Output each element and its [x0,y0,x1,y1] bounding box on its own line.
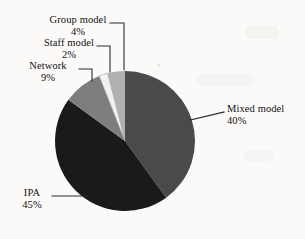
pie-chart-figure: Group model 4% Staff model 2% Network 9%… [0,0,305,239]
pie-label-mixed-model-name: Mixed model [227,103,303,115]
pie-label-group-model-name: Group model [35,14,121,26]
pie-label-ipa-name: IPA [12,187,52,199]
pie-label-ipa-value: 45% [12,199,52,211]
pie-label-ipa: IPA 45% [12,187,52,210]
pie-label-staff-model-name: Staff model [29,37,109,49]
pie-label-staff-model: Staff model 2% [29,37,109,60]
pie-label-group-model: Group model 4% [35,14,121,37]
pie-label-network-name: Network [13,60,83,72]
pie-slices [55,71,195,211]
pie-label-network: Network 9% [13,60,83,83]
pie-label-mixed-model-value: 40% [227,115,303,127]
pie-label-network-value: 9% [13,72,83,84]
pie-label-group-model-value: 4% [35,26,121,38]
pie-label-staff-model-value: 2% [29,49,109,61]
leader-line-mixed-model [190,112,224,120]
pie-label-mixed-model: Mixed model 40% [227,103,303,126]
